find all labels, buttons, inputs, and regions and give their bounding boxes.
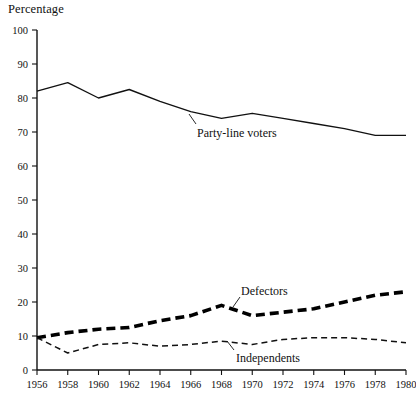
chart-container: Percentage 0102030405060708090100 195619… — [0, 0, 416, 397]
series-label-party-line-voters: Party-line voters — [197, 126, 277, 140]
x-tick-label: 1974 — [303, 379, 325, 390]
y-tick-label: 80 — [18, 93, 29, 104]
series-line-independents — [37, 338, 406, 353]
y-tick-label: 70 — [18, 127, 29, 138]
x-axis-ticks: 1956195819601962196419661968197019721974… — [27, 370, 416, 390]
x-tick-label: 1968 — [211, 379, 232, 390]
y-tick-label: 60 — [18, 161, 29, 172]
x-tick-label: 1958 — [57, 379, 78, 390]
y-axis-ticks: 0102030405060708090100 — [12, 25, 37, 376]
x-tick-label: 1972 — [273, 379, 294, 390]
x-tick-label: 1980 — [396, 379, 416, 390]
x-tick-label: 1976 — [334, 379, 355, 390]
x-tick-label: 1970 — [242, 379, 263, 390]
y-tick-label: 10 — [18, 331, 29, 342]
series-label-independents: Independents — [236, 351, 300, 365]
y-tick-label: 50 — [18, 195, 29, 206]
x-tick-label: 1960 — [88, 379, 109, 390]
line-chart-plot: 0102030405060708090100 19561958196019621… — [0, 0, 416, 397]
x-tick-label: 1956 — [27, 379, 48, 390]
series-annotations: Party-line voters Defectors Independents — [189, 114, 300, 365]
x-tick-label: 1966 — [180, 379, 201, 390]
leader-line-defectors — [233, 297, 240, 307]
y-tick-label: 0 — [23, 365, 28, 376]
y-tick-label: 20 — [18, 297, 29, 308]
x-tick-label: 1978 — [365, 379, 386, 390]
y-tick-label: 40 — [18, 229, 29, 240]
series-label-defectors: Defectors — [241, 284, 288, 298]
y-tick-label: 90 — [18, 59, 29, 70]
series-line-defectors — [37, 292, 406, 338]
x-axis: 1956195819601962196419661968197019721974… — [27, 370, 416, 390]
y-tick-label: 100 — [12, 25, 28, 36]
y-tick-label: 30 — [18, 263, 29, 274]
y-axis: 0102030405060708090100 — [12, 25, 37, 376]
leader-line-party-line-voters — [189, 114, 196, 124]
x-tick-label: 1964 — [150, 379, 172, 390]
x-tick-label: 1962 — [119, 379, 140, 390]
